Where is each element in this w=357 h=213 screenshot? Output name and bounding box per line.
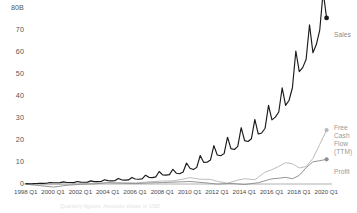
x-axis-tick-label: 2014 Q1: [233, 188, 256, 195]
y-axis-tick-label: 50: [0, 70, 24, 78]
x-axis-tick-label: 2016 Q1: [260, 188, 283, 195]
y-axis-tick-label: 10: [0, 158, 24, 166]
series-label-profit: Profit: [334, 168, 350, 176]
series-label-free-cash-flow-line2: Cash: [334, 132, 350, 140]
x-axis-tick-label: 2018 Q1: [287, 188, 310, 195]
y-axis-tick-label: 20: [0, 136, 24, 144]
y-axis-tick-label: 60: [0, 48, 24, 56]
x-axis-tick-label: 2008 Q1: [151, 188, 174, 195]
x-axis-tick-label: 2020 Q1: [315, 188, 338, 195]
y-axis-tick-label: 40: [0, 92, 24, 100]
chart-footnote: Quarterly figures. Amounts shown in USD.: [60, 203, 162, 209]
chart-plot-area: [0, 0, 357, 213]
y-axis-tick-label: 80B: [0, 4, 24, 12]
series-endpoint-marker: [324, 157, 328, 161]
series-group: [26, 0, 329, 187]
x-axis-tick-label: 2004 Q1: [96, 188, 119, 195]
series-label-free-cash-flow-line1: Free: [334, 124, 348, 132]
series-line-sales: [26, 0, 327, 184]
x-axis-tick-label: 2010 Q1: [178, 188, 201, 195]
chart-container: 80B706050403020100 1998 Q12000 Q12002 Q1…: [0, 0, 357, 213]
y-axis-tick-label: 0: [0, 180, 24, 188]
x-axis-tick-label: 2012 Q1: [205, 188, 228, 195]
y-axis-tick-label: 30: [0, 114, 24, 122]
series-label-free-cash-flow-line4: (TTM): [334, 148, 352, 156]
x-axis-tick-label: 2006 Q1: [123, 188, 146, 195]
x-axis-tick-label: 1998 Q1: [14, 188, 37, 195]
x-axis-tick-label: 2002 Q1: [69, 188, 92, 195]
series-label-free-cash-flow-line3: Flow: [334, 140, 348, 148]
series-label-sales: Sales: [334, 31, 351, 39]
series-line-free-cash-flow-ttm: [26, 130, 327, 185]
y-axis-tick-label: 70: [0, 26, 24, 34]
x-axis-tick-label: 2000 Q1: [41, 188, 64, 195]
series-endpoint-marker: [324, 16, 329, 21]
series-endpoint-marker: [324, 128, 328, 132]
